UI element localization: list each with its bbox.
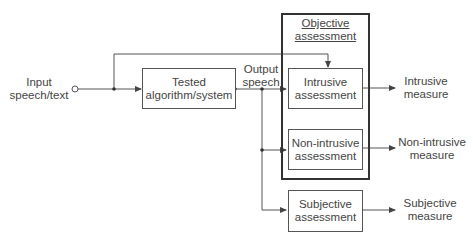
intrusive-measure-label: Intrusive measure	[396, 75, 456, 101]
nonintrusive-measure-label: Non-intrusive measure	[396, 136, 468, 162]
output-speech-label: Output speech	[238, 63, 284, 89]
intrusive-assessment-box: Intrusiveassessment	[288, 68, 363, 109]
objective-assessment-title: Objective assessment	[281, 17, 370, 43]
subjective-measure-label: Subjective measure	[398, 197, 462, 223]
tested-system-box: Testedalgorithm/system	[142, 68, 236, 109]
nonintrusive-assessment-box: Non-intrusiveassessment	[288, 129, 363, 170]
input-label: Input speech/text	[4, 76, 74, 102]
subjective-assessment-box: Subjectiveassessment	[288, 190, 363, 232]
